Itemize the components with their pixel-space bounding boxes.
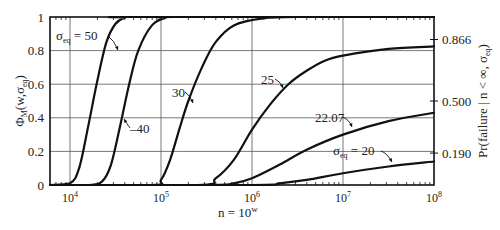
curve-label: σeq = 50 (56, 28, 118, 50)
curve-label: 25 (261, 72, 283, 88)
svg-text:ΦM(w,σeq): ΦM(w,σeq) (12, 75, 29, 127)
curve-label: 22.07 (315, 110, 352, 127)
left-tick-label: 0.6 (28, 77, 45, 92)
curve-sigma-30 (50, 17, 434, 185)
curve-label-text: 22.07 (315, 110, 345, 125)
curve-sigma-50 (50, 17, 434, 185)
right-tick-label: 0.500 (442, 94, 471, 109)
right-axis-ticks: 0.8660.5000.190 (430, 32, 472, 161)
x-axis-ticks: 104105106107108 (62, 190, 442, 205)
x-tick-label: 108 (426, 190, 442, 205)
chart: 00.20.40.60.81 0.8660.5000.190 104105106… (0, 0, 500, 230)
left-axis-ticks: 00.20.40.60.81 (28, 10, 45, 193)
right-axis-label: Pr(failure | n < ∞, σeq) (475, 44, 492, 158)
curves (50, 17, 434, 185)
left-tick-label: 1 (38, 10, 45, 25)
curve-label: –40 (124, 119, 150, 136)
x-tick-label: 104 (62, 190, 78, 205)
curve-label-text: 30 (172, 85, 185, 100)
right-tick-label: 0.190 (442, 146, 471, 161)
left-tick-label: 0.4 (28, 110, 45, 125)
curve-label-text: 25 (261, 72, 274, 87)
gridlines (50, 17, 434, 185)
curve-label-text: –40 (129, 121, 150, 136)
x-tick-label: 105 (153, 190, 169, 205)
curve-labels: σeq = 50–40302522.07σeq = 20 (56, 28, 392, 162)
curve-label: σeq = 20 (333, 143, 392, 162)
left-tick-label: 0 (38, 178, 45, 193)
curve-sigma-25 (50, 46, 434, 185)
right-tick-label: 0.866 (442, 32, 472, 47)
x-axis-label: n = 10w (218, 204, 258, 220)
left-tick-label: 0.8 (28, 43, 44, 58)
left-axis-label: ΦM(w,σeq) (12, 75, 29, 127)
curve-sigma-40 (50, 17, 434, 185)
curve-label-text: σeq = 20 (333, 143, 374, 160)
left-tick-label: 0.2 (28, 144, 44, 159)
x-tick-label: 106 (244, 190, 260, 205)
x-tick-label: 107 (335, 190, 351, 205)
plot-frame (50, 17, 434, 185)
curve-label-text: σeq = 50 (56, 28, 97, 45)
svg-text:Pr(failure | n < ∞, σeq): Pr(failure | n < ∞, σeq) (475, 44, 492, 158)
